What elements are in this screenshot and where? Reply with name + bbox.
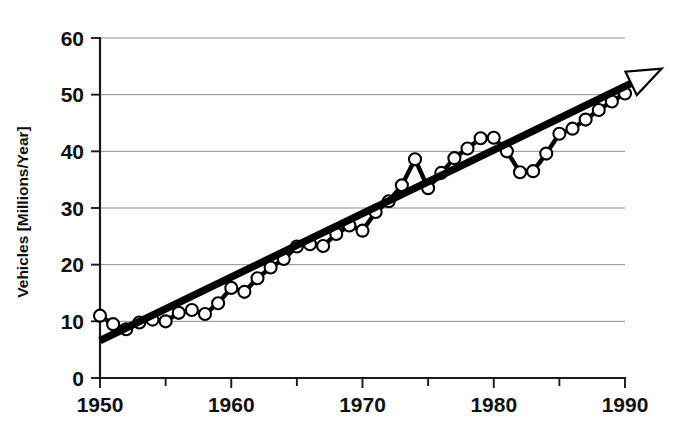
data-point-1962 bbox=[252, 272, 264, 284]
data-point-1977 bbox=[448, 152, 460, 164]
trend-line-group bbox=[100, 69, 662, 341]
y-tick-label-30: 30 bbox=[61, 197, 84, 220]
chart-canvas: 0102030405060 19501960197019801990 Vehic… bbox=[0, 0, 685, 442]
data-point-1957 bbox=[186, 304, 198, 316]
data-point-1985 bbox=[553, 128, 565, 140]
grid-lines bbox=[100, 38, 625, 321]
data-point-1983 bbox=[527, 165, 539, 177]
data-point-1974 bbox=[409, 153, 421, 165]
data-point-1988 bbox=[593, 104, 605, 116]
y-axis-title: Vehicles [Millions/Year] bbox=[14, 126, 31, 297]
data-point-1978 bbox=[462, 143, 474, 155]
y-tick-label-10: 10 bbox=[61, 310, 84, 333]
trend-line bbox=[100, 83, 631, 340]
data-point-1958 bbox=[199, 308, 211, 320]
data-point-1987 bbox=[580, 114, 592, 126]
y-axis-title-group: Vehicles [Millions/Year] bbox=[14, 126, 31, 297]
data-point-1979 bbox=[475, 132, 487, 144]
x-tick-label-1950: 1950 bbox=[77, 393, 124, 416]
data-point-1950 bbox=[94, 310, 106, 322]
x-tick-label-1960: 1960 bbox=[208, 393, 255, 416]
chart-figure: 0102030405060 19501960197019801990 Vehic… bbox=[0, 0, 685, 442]
x-tick-marks bbox=[100, 378, 625, 388]
data-point-1982 bbox=[514, 166, 526, 178]
data-point-1984 bbox=[540, 148, 552, 160]
data-point-1955 bbox=[160, 315, 172, 327]
data-point-1961 bbox=[238, 286, 250, 298]
data-point-1986 bbox=[567, 123, 579, 135]
x-tick-labels: 19501960197019801990 bbox=[77, 393, 649, 416]
data-point-1967 bbox=[317, 240, 329, 252]
y-tick-label-40: 40 bbox=[61, 140, 84, 163]
y-tick-label-0: 0 bbox=[72, 367, 84, 390]
data-point-1980 bbox=[488, 132, 500, 144]
data-point-1960 bbox=[225, 282, 237, 294]
data-point-1956 bbox=[173, 307, 185, 319]
x-tick-label-1990: 1990 bbox=[602, 393, 649, 416]
data-point-1959 bbox=[212, 297, 224, 309]
x-tick-label-1980: 1980 bbox=[470, 393, 517, 416]
y-tick-labels: 0102030405060 bbox=[61, 27, 84, 390]
x-tick-label-1970: 1970 bbox=[339, 393, 386, 416]
y-tick-label-50: 50 bbox=[61, 83, 84, 106]
data-point-1970 bbox=[357, 225, 369, 237]
y-tick-label-20: 20 bbox=[61, 253, 84, 276]
y-tick-label-60: 60 bbox=[61, 27, 84, 50]
y-tick-marks bbox=[91, 38, 100, 378]
